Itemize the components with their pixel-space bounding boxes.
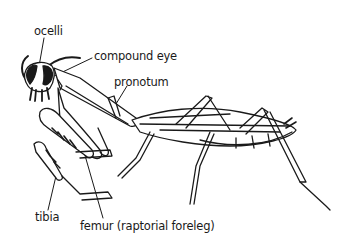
label-ocelli: ocelli (34, 26, 63, 38)
label-compound-eye: compound eye (94, 51, 177, 63)
label-pronotum: pronotum (114, 77, 169, 89)
label-femur: femur (raptorial foreleg) (80, 221, 215, 233)
head (25, 63, 54, 101)
mantis-diagram: ocelli compound eye pronotum tibia femur… (0, 0, 352, 250)
label-tibia: tibia (35, 212, 59, 224)
walking-legs (108, 96, 330, 210)
